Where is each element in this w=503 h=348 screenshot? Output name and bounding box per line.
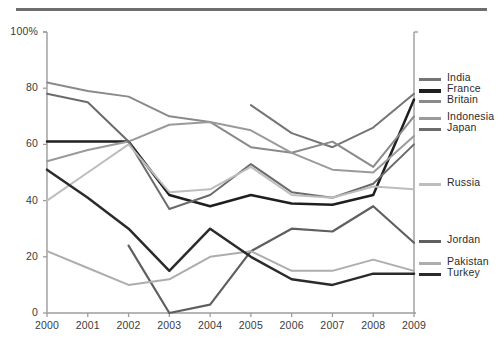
series-line-turkey [47, 170, 414, 285]
x-tick-label-2002: 2002 [112, 319, 146, 331]
legend-swatch-france [419, 89, 441, 93]
legend-swatch-india [419, 78, 441, 81]
x-tick-label-2008: 2008 [356, 319, 390, 331]
x-tick-label-2000: 2000 [30, 319, 64, 331]
legend-label-jordan: Jordan [447, 233, 480, 245]
x-tick-label-2009: 2009 [397, 319, 431, 331]
chart-series-lines [47, 83, 414, 313]
legend-swatch-russia [419, 183, 441, 186]
y-tick-label-40: 40 [4, 194, 38, 206]
x-tick-label-2001: 2001 [71, 319, 105, 331]
legend-label-japan: Japan [447, 121, 477, 133]
legend-label-britain: Britain [447, 93, 478, 105]
legend-swatch-pakistan [419, 262, 441, 265]
x-tick-label-2005: 2005 [234, 319, 268, 331]
chart-plot-area [0, 0, 503, 348]
series-line-india [251, 94, 414, 147]
series-line-indonesia [47, 122, 414, 173]
legend-swatch-turkey [419, 273, 441, 276]
chart-screenshot: 100%806040200 20002001200220032004200520… [0, 0, 503, 348]
x-tick-label-2004: 2004 [193, 319, 227, 331]
y-tick-label-60: 60 [4, 137, 38, 149]
chart-axes [43, 32, 418, 317]
legend-swatch-japan [419, 128, 441, 131]
line-chart: 100%806040200 20002001200220032004200520… [0, 0, 503, 348]
legend-label-russia: Russia [447, 176, 480, 188]
x-tick-label-2007: 2007 [315, 319, 349, 331]
x-tick-label-2003: 2003 [152, 319, 186, 331]
legend-swatch-britain [419, 100, 441, 103]
x-tick-label-2006: 2006 [275, 319, 309, 331]
legend-swatch-jordan [419, 240, 441, 243]
y-tick-label-80: 80 [4, 81, 38, 93]
series-line-britain [47, 83, 414, 167]
series-line-japan [47, 94, 414, 209]
legend-swatch-indonesia [419, 117, 441, 120]
y-tick-label-100: 100% [4, 25, 38, 37]
series-line-pakistan [47, 251, 414, 285]
y-tick-label-20: 20 [4, 250, 38, 262]
legend-label-turkey: Turkey [447, 266, 480, 278]
y-tick-label-0: 0 [4, 306, 38, 318]
